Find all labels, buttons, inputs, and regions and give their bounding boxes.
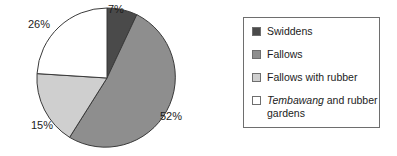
pie-label-swiddens: 7%: [108, 3, 124, 15]
pie-label-fallows-with-rubber: 15%: [31, 119, 53, 131]
legend-item-fallows-with-rubber[interactable]: Fallows with rubber: [252, 71, 379, 84]
legend-label-tembawang-and-rubber-gardens: Tembawang and rubber gardens: [267, 94, 379, 120]
legend-label-italic-part: Tembawang: [267, 94, 324, 106]
legend-swatch-swiddens: [252, 27, 261, 36]
pie-label-fallows: 52%: [160, 110, 182, 122]
pie-chart-plot-area: 7% 26% 52% 15%: [0, 0, 215, 156]
pie-chart-figure: 7% 26% 52% 15% Swiddens Fallows Fallows …: [0, 0, 397, 156]
legend-list: Swiddens Fallows Fallows with rubber Tem…: [244, 18, 379, 127]
legend-item-tembawang-and-rubber-gardens[interactable]: Tembawang and rubber gardens: [252, 94, 379, 120]
legend-label-swiddens: Swiddens: [267, 25, 313, 38]
legend-label-fallows: Fallows: [267, 48, 303, 61]
legend-label-fallows-with-rubber: Fallows with rubber: [267, 71, 357, 84]
legend-swatch-fallows: [252, 50, 261, 59]
legend-item-fallows[interactable]: Fallows: [252, 48, 379, 61]
legend-swatch-fallows-with-rubber: [252, 73, 261, 82]
legend-swatch-tembawang-and-rubber-gardens: [252, 96, 261, 105]
pie-label-tembawang: 26%: [28, 18, 50, 30]
legend-item-swiddens[interactable]: Swiddens: [252, 25, 379, 38]
chart-legend: Swiddens Fallows Fallows with rubber Tem…: [243, 17, 380, 128]
